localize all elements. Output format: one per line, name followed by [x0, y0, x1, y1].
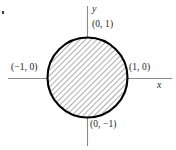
point-label-top: (0, 1) — [92, 19, 113, 29]
unit-disk-figure: (0, 1) (−1, 0) (1, 0) (0, −1) y x — [0, 0, 176, 150]
figure-canvas — [0, 0, 176, 150]
point-label-left: (−1, 0) — [11, 62, 38, 72]
x-axis-label: x — [157, 79, 161, 90]
point-label-right: (1, 0) — [129, 62, 150, 72]
point-label-bottom: (0, −1) — [90, 119, 117, 129]
y-axis-label: y — [92, 3, 96, 14]
scan-artifact-speck — [2, 11, 4, 14]
